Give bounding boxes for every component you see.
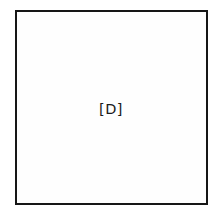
figure-canvas: [D] xyxy=(0,0,217,216)
figure-frame-content: [D] xyxy=(17,12,206,203)
figure-placeholder-frame: [D] xyxy=(15,10,208,205)
figure-placeholder-label: [D] xyxy=(99,102,123,117)
